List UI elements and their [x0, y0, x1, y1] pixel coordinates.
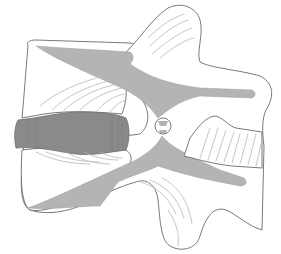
anatomical-illustration: Line drawing of two adjacent vertebrae w…: [0, 0, 281, 254]
facet-joint-cap-bottom: [159, 130, 167, 133]
